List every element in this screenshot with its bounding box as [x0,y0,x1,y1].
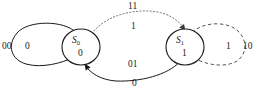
edge-label-s0-self-input: 00 [2,42,12,52]
edge-label-s1-to-s0-input: 01 [128,60,138,70]
state-label-s0: S0 [72,36,80,46]
edge-label-s0-to-s1-output: 1 [131,22,136,32]
edge-label-s0-to-s1-input: 11 [128,2,137,12]
state-label-s1: S1 [176,36,184,46]
state-node-s1[interactable] [166,29,204,65]
edge-label-s0-self-output: 0 [25,42,30,52]
state-output-s1: 1 [182,49,187,59]
state-node-s0[interactable] [62,29,100,65]
edge-s0-to-s1-path [92,11,185,34]
state-label-s0-subscript: 0 [77,39,80,46]
edge-label-s1-self-input: 10 [243,42,253,52]
state-label-s1-subscript: 1 [181,39,184,46]
state-output-s0: 0 [78,49,83,59]
edge-label-s1-to-s0-output: 0 [132,79,137,89]
edge-label-s1-self-output: 1 [226,42,231,52]
state-transition-diagram: S0 0 S1 1 00 0 11 1 01 0 1 10 [0,0,266,91]
